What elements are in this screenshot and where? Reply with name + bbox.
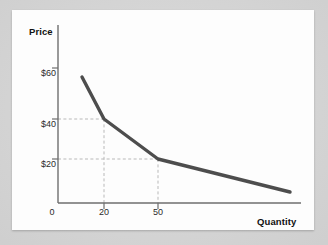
y-tick-label-60: $60 bbox=[26, 68, 56, 78]
x-tick-label-50: 50 bbox=[146, 207, 170, 217]
x-tick-label-20: 20 bbox=[92, 207, 116, 217]
demand-curve-plot bbox=[12, 10, 314, 230]
y-axis-title: Price bbox=[29, 26, 53, 37]
chart-card: Price Quantity $60 $40 $20 0 20 50 bbox=[12, 10, 314, 230]
x-tick-label-0: 0 bbox=[40, 207, 64, 217]
y-tick-label-20: $20 bbox=[26, 159, 56, 169]
y-tick-label-40: $40 bbox=[26, 119, 56, 129]
x-axis-title: Quantity bbox=[257, 216, 296, 227]
demand-curve-line bbox=[82, 77, 290, 192]
screenshot-root: Price Quantity $60 $40 $20 0 20 50 bbox=[0, 0, 328, 245]
